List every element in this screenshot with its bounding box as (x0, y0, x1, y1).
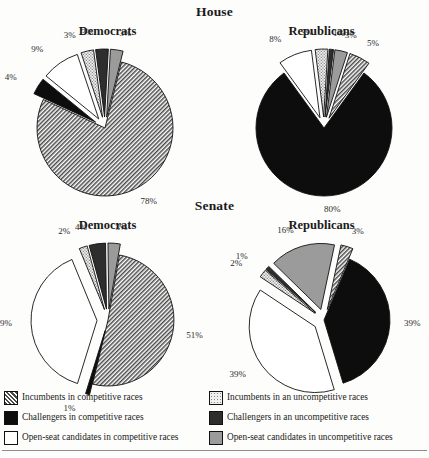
legend-label-uncompetitive-2: Open-seat candidates in uncompetitive ra… (227, 433, 393, 442)
legend-swatch-solid-black-icon (4, 411, 18, 425)
pie-slice-label-house-democrats-3: 3% (64, 30, 76, 40)
pie-chart-senate-republicans: Republicans 3%39%39%2%1%16% (214, 218, 429, 390)
pie-chart-house-republicans: Republicans 5%80%8%3%1%3% (214, 24, 429, 199)
legend-swatch-hatch-dark-icon (4, 391, 18, 405)
pie-title-senate-democrats: Democrats (0, 218, 215, 233)
legend-item-competitive-2: Open-seat candidates in competitive race… (4, 428, 209, 448)
legend-column-competitive: Incumbents in competitive racesChallenge… (4, 388, 209, 448)
section-title-house: House (0, 4, 429, 20)
legend-label-uncompetitive-0: Incumbents in an uncompetitive races (227, 393, 368, 402)
pie-title-house-democrats: Democrats (0, 24, 215, 39)
pie-title-senate-republicans: Republicans (214, 218, 429, 233)
legend-label-uncompetitive-1: Challengers in an uncompetitive races (227, 413, 369, 422)
pie-slice-label-house-republicans-1: 80% (324, 204, 341, 214)
pie-slice-label-senate-democrats-5: 3% (115, 222, 127, 232)
pie-canvas-house-democrats (0, 40, 215, 215)
pie-chart-senate-democrats: Democrats 51%1%39%2%4%3% (0, 218, 215, 390)
legend-item-competitive-1: Challengers in competitive races (4, 408, 209, 428)
pie-slice-label-senate-republicans-1: 39% (404, 318, 421, 328)
legend-swatch-dark-gray-icon (209, 411, 223, 425)
legend-label-competitive-0: Incumbents in competitive races (22, 393, 143, 402)
pie-slice-label-house-republicans-4: 1% (333, 28, 345, 38)
pie-slice-label-senate-republicans-0: 3% (352, 226, 364, 236)
pie-slice-label-senate-republicans-2: 39% (230, 369, 247, 379)
pie-slice-label-house-democrats-0: 78% (140, 196, 157, 206)
pie-slice-label-house-republicans-5: 3% (345, 30, 357, 40)
pie-title-house-republicans: Republicans (214, 24, 429, 39)
pie-slice-senate-republicans-5 (274, 243, 335, 309)
pie-slice-label-senate-republicans-5: 16% (277, 225, 294, 235)
pie-slice-label-house-democrats-4: 3% (81, 27, 93, 37)
legend-column-uncompetitive: Incumbents in an uncompetitive racesChal… (209, 388, 425, 448)
figure-pie-chart-grid: House Senate Democrats 78%4%9%3%3%3% Rep… (0, 0, 429, 458)
legend-swatch-white-icon (4, 431, 18, 445)
pie-slice-label-senate-democrats-4: 4% (75, 222, 87, 232)
pie-chart-house-democrats: Democrats 78%4%9%3%3%3% (0, 24, 215, 199)
pie-slice-label-senate-democrats-2: 39% (0, 318, 12, 328)
legend-label-competitive-2: Open-seat candidates in competitive race… (22, 433, 178, 442)
pie-slice-label-senate-democrats-3: 2% (58, 226, 70, 236)
bottom-divider (2, 450, 427, 451)
pie-slice-label-house-democrats-1: 4% (5, 72, 17, 82)
pie-slice-label-senate-democrats-0: 51% (186, 330, 203, 340)
pie-slice-senate-democrats-2 (31, 259, 97, 383)
legend-swatch-mid-gray-icon (209, 431, 223, 445)
legend-label-competitive-1: Challengers in competitive races (22, 413, 144, 422)
legend-swatch-stipple-light-icon (209, 391, 223, 405)
legend-item-competitive-0: Incumbents in competitive races (4, 388, 209, 408)
legend-item-uncompetitive-1: Challengers in an uncompetitive races (209, 408, 425, 428)
pie-canvas-senate-democrats (0, 234, 215, 406)
pie-slice-label-house-democrats-2: 9% (31, 44, 43, 54)
pie-slice-label-house-republicans-2: 8% (269, 34, 281, 44)
pie-slice-label-house-democrats-5: 3% (119, 28, 131, 38)
pie-slice-label-house-republicans-3: 3% (301, 27, 313, 37)
pie-slice-label-house-republicans-0: 5% (367, 38, 379, 48)
pie-canvas-house-republicans (214, 40, 429, 215)
pie-slice-label-senate-republicans-4: 1% (236, 251, 248, 261)
legend-item-uncompetitive-2: Open-seat candidates in uncompetitive ra… (209, 428, 425, 448)
legend-item-uncompetitive-0: Incumbents in an uncompetitive races (209, 388, 425, 408)
